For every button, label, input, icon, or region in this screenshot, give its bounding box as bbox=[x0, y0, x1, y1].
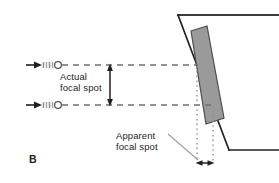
apparent-focal-spot-label-line1: Apparent bbox=[116, 130, 158, 141]
apparent-focal-spot-label: Apparent focal spot bbox=[116, 130, 158, 152]
beam-upper-arrowhead bbox=[34, 62, 42, 69]
actual-focal-spot-label: Actual focal spot bbox=[60, 71, 102, 93]
angled-target-block bbox=[191, 26, 224, 124]
target-surface bbox=[191, 26, 224, 124]
apparent-label-leader bbox=[168, 134, 198, 160]
focal-spot-upper bbox=[55, 62, 62, 69]
apparent-dimension-arrow-left bbox=[196, 160, 203, 166]
beam-upper-stripes bbox=[44, 62, 53, 68]
electron-beam-upper bbox=[26, 62, 61, 69]
beam-lower-stripes bbox=[44, 102, 53, 108]
leader-line bbox=[168, 134, 198, 160]
apparent-focal-spot-dimension bbox=[196, 160, 215, 166]
figure-panel-b: Actual focal spot Apparent focal spot B bbox=[0, 0, 279, 183]
beam-lower-arrowhead bbox=[34, 102, 42, 109]
line-focus-principle-diagram bbox=[0, 0, 279, 183]
electron-beam-lower bbox=[26, 102, 61, 109]
focal-spot-lower bbox=[55, 102, 62, 109]
actual-focal-spot-label-line1: Actual bbox=[60, 71, 102, 82]
apparent-focal-spot-label-line2: focal spot bbox=[116, 141, 158, 152]
actual-focal-spot-label-line2: focal spot bbox=[60, 82, 102, 93]
actual-focal-spot-dimension bbox=[107, 64, 113, 107]
panel-letter-label: B bbox=[29, 154, 37, 165]
apparent-dimension-arrow-right bbox=[208, 160, 215, 166]
